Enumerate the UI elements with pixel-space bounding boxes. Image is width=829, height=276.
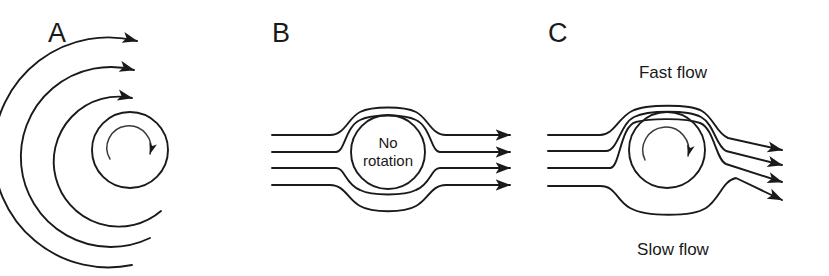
panel-b-streamline-3 [272, 168, 510, 195]
panel-b-circle-label-line1: No [378, 134, 397, 151]
panel-c-label: C [548, 18, 568, 48]
panel-b-circle-label-line2: rotation [363, 152, 413, 169]
panel-a-rotation-arrow [107, 126, 151, 159]
panel-c-rotation-arrow [643, 127, 689, 160]
panel-c: C Fast flow Slow flow [548, 18, 782, 259]
panel-a-cylinder-circle [92, 112, 168, 188]
panel-a-streamline-arc-2 [21, 67, 150, 247]
panel-a-streamline-arc-3 [54, 97, 161, 227]
panel-a: A [0, 18, 168, 267]
panel-a-label: A [48, 18, 66, 48]
panel-c-cylinder-circle [629, 112, 705, 188]
panel-b: B No rotation [272, 18, 510, 211]
panel-b-streamline-1 [272, 108, 510, 136]
figure-canvas: A B No rotatio [0, 0, 829, 276]
panel-c-fast-flow-label: Fast flow [639, 63, 708, 82]
magnus-effect-figure: A B No rotatio [0, 0, 829, 276]
panel-c-slow-flow-label: Slow flow [637, 240, 710, 259]
panel-c-streamline-4 [548, 178, 782, 215]
panel-b-label: B [272, 18, 290, 48]
